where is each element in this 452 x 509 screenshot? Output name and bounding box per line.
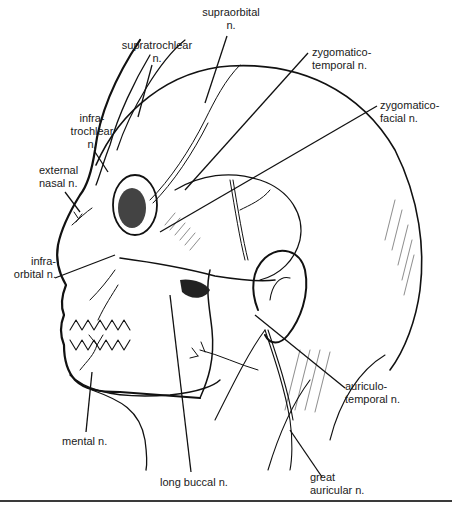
label-long-buccal: long buccal n. [160,476,250,489]
neck-front [92,390,147,470]
ear [253,251,306,343]
label-supratrochlear: supratrochlear n. [112,39,202,65]
leader-great-auricular [290,430,322,477]
label-external-nasal: external nasal n. [39,164,99,190]
label-infraorbital: infra- orbital n. [0,255,56,281]
label-zygomaticotemporal: zygomatico- temporal n. [312,46,392,72]
leader-infraorbital [55,255,115,278]
leader-lines [55,36,377,477]
leader-zygomaticotemporal [185,53,308,190]
nerve-diagram: supraorbital n. supratrochlear n. zygoma… [0,0,452,509]
zygomatic-arch [120,258,275,281]
leader-zygomaticofacial [160,106,377,232]
cranium-outline [96,66,422,370]
label-mental: mental n. [62,435,122,448]
label-supraorbital: supraorbital n. [196,6,266,32]
leader-auriculotemporal [255,315,345,388]
label-zygomaticofacial: zygomatico- facial n. [380,99,452,125]
label-great-auricular: great auricular n. [310,471,390,497]
leader-long-buccal [170,295,191,472]
label-auriculotemporal: auriculo- temporal n. [345,380,435,406]
leader-mental [86,372,92,432]
teeth [70,320,130,350]
label-infratrochlear: infra- trochlear n. [62,112,122,151]
head-illustration [0,0,452,509]
bottom-rule [0,500,452,502]
